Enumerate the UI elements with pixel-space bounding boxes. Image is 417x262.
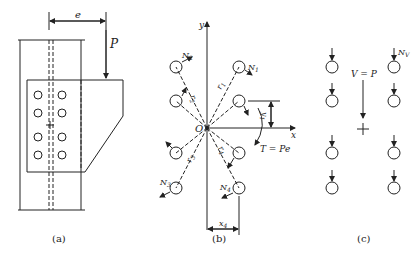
label-e: e (75, 9, 81, 20)
label-torque: T = Pe (260, 144, 290, 154)
label-origin: O (195, 123, 203, 134)
label-N4: N4 (219, 183, 231, 193)
bolt-connection-diagram: e P (a) (0, 0, 417, 262)
label-y-axis: y (198, 20, 205, 30)
caption-a: (a) (52, 233, 66, 244)
label-N1: N1 (247, 63, 259, 73)
label-r3: r3 (184, 153, 196, 164)
label-x-axis: x (291, 130, 296, 140)
label-P: P (109, 37, 119, 51)
label-x4: x4 (219, 219, 228, 229)
label-r2: r2 (187, 94, 199, 105)
label-N3: N3 (159, 178, 171, 188)
caption-c: (c) (357, 233, 371, 244)
figure-b (160, 22, 295, 235)
label-y1: y1 (259, 111, 269, 120)
label-N2: N2 (181, 51, 193, 61)
label-Nv: NV (397, 48, 410, 58)
figure-a (18, 12, 123, 210)
label-r1: r1 (215, 80, 227, 91)
caption-b: (b) (212, 233, 226, 244)
label-shear: V = P (351, 69, 378, 79)
